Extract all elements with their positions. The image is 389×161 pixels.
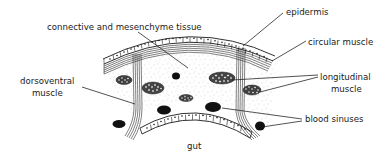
body-wall-diagram: connective and mesenchyme tissue epiderm…	[0, 0, 389, 161]
gut-layer	[140, 113, 252, 138]
label-longitudinal-muscle-2: muscle	[331, 84, 362, 94]
label-circular-muscle: circular muscle	[308, 37, 373, 47]
label-longitudinal-muscle-1: longitudinal	[320, 72, 371, 82]
label-epidermis: epidermis	[286, 7, 329, 17]
label-gut: gut	[187, 141, 202, 151]
label-dorsoventral-muscle-2: muscle	[32, 88, 63, 98]
label-connective-tissue: connective and mesenchyme tissue	[47, 22, 202, 32]
label-dorsoventral-muscle-1: dorsoventral	[20, 76, 74, 86]
label-blood-sinuses: blood sinuses	[305, 114, 364, 124]
